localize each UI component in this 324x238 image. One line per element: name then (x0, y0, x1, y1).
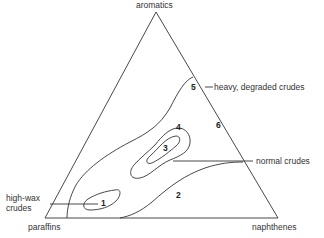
curve-label-4: 4 (176, 122, 181, 132)
ternary-triangle (45, 12, 278, 218)
curve-4 (131, 128, 191, 178)
annotation-normal-crudes: normal crudes (256, 156, 310, 166)
annotation-high-wax: high-wax (6, 193, 40, 203)
curve-label-1: 1 (101, 198, 106, 208)
vertex-label-aromatics: aromatics (136, 0, 173, 10)
vertex-label-naphthenes: naphthenes (252, 222, 296, 232)
curve-label-6: 6 (216, 120, 221, 130)
curve-label-2: 2 (176, 190, 181, 200)
curve-label-3: 3 (163, 143, 168, 153)
annotation-heavy-degraded-crudes: heavy, degraded crudes (214, 82, 305, 92)
annotation-crudes: crudes (6, 203, 32, 213)
ternary-diagram (0, 0, 324, 238)
vertex-label-paraffins: paraffins (28, 222, 60, 232)
curve-2 (120, 162, 243, 218)
curve-label-5: 5 (191, 82, 196, 92)
